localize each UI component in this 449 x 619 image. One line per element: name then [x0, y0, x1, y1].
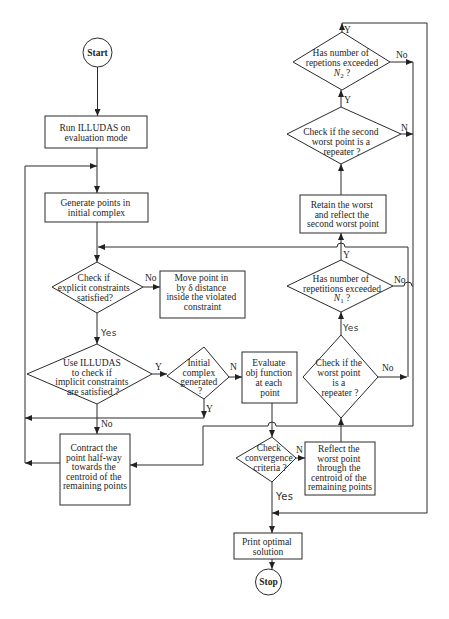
node-label: Generate points in initial complex	[60, 198, 132, 218]
edge-label-n2-yes: Y	[344, 25, 351, 35]
node-retain-worst: Retain the worst and reflect the second …	[300, 195, 386, 233]
node-worst-repeater: Check if the worst point is a repeater ?	[303, 335, 378, 418]
node-stop: Stop	[256, 569, 282, 595]
node-label: Check convergence criteria ?	[245, 443, 295, 473]
edge-label-convergence-yes: Yes	[275, 491, 293, 502]
node-label: Check if the worst point is a repeater ?	[316, 358, 365, 398]
node-print-solution: Print optimal solution	[234, 533, 302, 559]
edge-label-initial-no: N	[230, 362, 237, 372]
optimization-flowchart: Start Run ILLUDAS on evaluation mode Gen…	[0, 0, 449, 619]
node-label: Print optimal solution	[242, 537, 294, 557]
edge-label-worst-no: No	[382, 363, 394, 373]
edge-label-second-yes: Y	[344, 95, 351, 105]
node-contract-point: Contract the point half-way towards the …	[60, 434, 130, 505]
node-label: Has number of repetitions exceeded	[303, 274, 381, 294]
node-label: Start	[87, 48, 108, 58]
node-label: Stop	[259, 577, 277, 587]
node-label: Use ILLUDAS to check if implicit constra…	[55, 358, 130, 397]
node-second-worst-repeater: Check if the second worst point is a rep…	[287, 107, 401, 164]
node-label: Contract the point half-way towards the …	[63, 443, 127, 491]
n1-variable: N1 ?	[333, 293, 350, 305]
edge-label-implicit-no: No	[101, 419, 113, 429]
node-check-convergence: Check convergence criteria ?	[236, 437, 296, 482]
node-reflect-worst: Reflect the worst point through the cent…	[305, 442, 375, 495]
connector-worst-no-loop-to-explicit	[98, 243, 408, 377]
n2-variable: N2 ?	[333, 68, 350, 80]
node-label: Reflect the worst point through the cent…	[308, 444, 372, 492]
node-label: Move point in by δ distance inside the v…	[166, 273, 238, 312]
node-move-point: Move point in by δ distance inside the v…	[160, 271, 245, 318]
node-run-illudas: Run ILLUDAS on evaluation mode	[45, 116, 147, 148]
node-start: Start	[83, 38, 112, 67]
edge-label-convergence-no: N	[296, 445, 303, 455]
edge-label-n1-yes: Y	[343, 250, 350, 260]
node-label: Evaluate obj function at each point	[246, 358, 295, 398]
node-n2-exceeded: Has number of repetions exceeded N2 ?	[293, 32, 390, 90]
node-label: Retain the worst and reflect the second …	[307, 200, 379, 229]
edge-label-n2-no: No	[396, 50, 408, 60]
node-check-implicit: Use ILLUDAS to check if implicit constra…	[27, 344, 152, 404]
node-label: Has number of repetions exceeded	[306, 48, 379, 68]
node-initial-complex: Initial complex generated ?	[167, 347, 229, 399]
edge-labels: No Yes Y No N Y N Yes Yes No Y No Y N Y …	[100, 25, 408, 502]
edge-label-worst-yes: Yes	[342, 323, 359, 333]
node-n1-exceeded: Has number of repetitions exceeded N1 ?	[287, 260, 393, 312]
edge-label-n1-no: No	[394, 275, 406, 285]
edge-label-explicit-no: No	[145, 273, 157, 283]
edge-label-implicit-yes: Y	[155, 362, 162, 372]
edge-label-initial-yes: Y	[206, 404, 213, 414]
node-check-explicit: Check if explicit constraints satisfied?	[52, 262, 143, 313]
node-evaluate-obj: Evaluate obj function at each point	[242, 352, 297, 403]
node-label: Run ILLUDAS on evaluation mode	[59, 123, 132, 143]
node-generate-points: Generate points in initial complex	[45, 193, 148, 222]
edge-label-second-no: N	[401, 123, 408, 133]
node-label: Check if the second worst point is a rep…	[303, 127, 381, 157]
edge-label-explicit-yes: Yes	[100, 328, 117, 338]
